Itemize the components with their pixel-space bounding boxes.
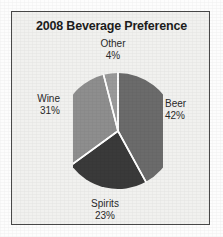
slice-label-beer-name: Beer — [165, 98, 209, 110]
slice-label-spirits-value: 23% — [74, 210, 136, 222]
slice-label-wine-value: 31% — [16, 105, 60, 117]
chart-title: 2008 Beverage Preference — [0, 19, 223, 33]
slice-label-other-name: Other — [83, 38, 143, 50]
pie-chart-figure: 2008 Beverage Preference — [0, 0, 223, 237]
slice-label-wine-name: Wine — [16, 93, 60, 105]
slice-label-other-value: 4% — [83, 50, 143, 62]
slice-label-wine: Wine 31% — [16, 93, 60, 116]
pie-svg — [73, 72, 163, 190]
slice-label-spirits: Spirits 23% — [74, 198, 136, 221]
slice-label-other: Other 4% — [83, 38, 143, 61]
slice-label-beer-value: 42% — [165, 110, 209, 122]
pie-graphic — [73, 72, 163, 190]
slice-label-beer: Beer 42% — [165, 98, 209, 121]
slice-label-spirits-name: Spirits — [74, 198, 136, 210]
